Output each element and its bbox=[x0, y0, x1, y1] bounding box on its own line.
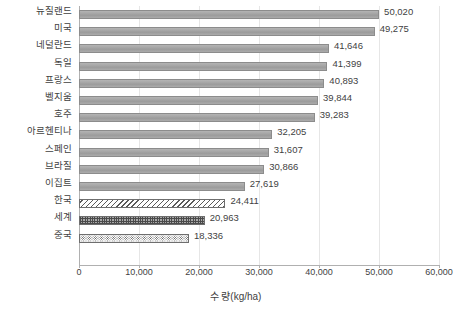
bar-value-label: 27,619 bbox=[250, 179, 279, 189]
x-axis-tick-mark bbox=[379, 265, 380, 268]
bar[interactable] bbox=[79, 113, 315, 122]
bar-row: 이집트27,619 bbox=[0, 178, 471, 195]
bar-row: 호주39,283 bbox=[0, 109, 471, 126]
bar-value-label: 39,283 bbox=[320, 110, 349, 120]
bar[interactable] bbox=[79, 216, 205, 225]
category-label: 네덜란드 bbox=[0, 40, 72, 50]
bar[interactable] bbox=[79, 10, 379, 19]
bar-row: 프랑스40,893 bbox=[0, 75, 471, 92]
category-label: 브라질 bbox=[0, 161, 72, 171]
bar-value-label: 39,844 bbox=[323, 93, 352, 103]
x-axis-tick-mark bbox=[439, 265, 440, 268]
bar-value-label: 20,963 bbox=[210, 213, 239, 223]
bar[interactable] bbox=[79, 234, 189, 243]
bar-chart: 뉴질랜드50,020미국49,275네덜란드41,646독일41,399프랑스4… bbox=[0, 0, 471, 328]
bar-value-label: 50,020 bbox=[384, 7, 413, 17]
bar-value-label: 41,399 bbox=[332, 59, 361, 69]
bar[interactable] bbox=[79, 130, 272, 139]
bar[interactable] bbox=[79, 62, 327, 71]
bar-value-label: 24,411 bbox=[230, 196, 258, 206]
bar-row: 중국18,336 bbox=[0, 230, 471, 247]
category-label: 미국 bbox=[0, 23, 72, 33]
bar-row: 세계20,963 bbox=[0, 212, 471, 229]
category-label: 프랑스 bbox=[0, 75, 72, 85]
category-label: 세계 bbox=[0, 212, 72, 222]
bar-row: 네덜란드41,646 bbox=[0, 40, 471, 57]
category-label: 아르헨티나 bbox=[0, 126, 72, 136]
bar[interactable] bbox=[79, 79, 324, 88]
bar[interactable] bbox=[79, 182, 245, 191]
bar-row: 브라질30,866 bbox=[0, 161, 471, 178]
bar-row: 미국49,275 bbox=[0, 23, 471, 40]
x-axis-tick-mark bbox=[259, 265, 260, 268]
bar-row: 독일41,399 bbox=[0, 58, 471, 75]
category-label: 한국 bbox=[0, 195, 72, 205]
bar-row: 스페인31,607 bbox=[0, 144, 471, 161]
x-axis-tick-label: 60,000 bbox=[404, 268, 471, 277]
bar[interactable] bbox=[79, 27, 375, 36]
bar[interactable] bbox=[79, 165, 264, 174]
bar-value-label: 30,866 bbox=[269, 162, 298, 172]
category-label: 호주 bbox=[0, 109, 72, 119]
x-axis-tick-mark bbox=[139, 265, 140, 268]
category-label: 스페인 bbox=[0, 144, 72, 154]
x-axis-title-text: 수 량(kg/ha) bbox=[210, 291, 262, 302]
category-label: 이집트 bbox=[0, 178, 72, 188]
x-axis-title: 수 량(kg/ha) bbox=[0, 292, 471, 302]
bar[interactable] bbox=[79, 199, 225, 208]
x-axis-tick-mark bbox=[319, 265, 320, 268]
category-label: 벨지움 bbox=[0, 92, 72, 102]
bar-row: 아르헨티나32,205 bbox=[0, 126, 471, 143]
bar[interactable] bbox=[79, 96, 318, 105]
bar-row: 한국24,411 bbox=[0, 195, 471, 212]
bar-value-label: 31,607 bbox=[274, 145, 303, 155]
bar-row: 뉴질랜드50,020 bbox=[0, 6, 471, 23]
bar-value-label: 49,275 bbox=[380, 24, 409, 34]
category-label: 중국 bbox=[0, 230, 72, 240]
bar-row: 벨지움39,844 bbox=[0, 92, 471, 109]
bar-value-label: 40,893 bbox=[329, 76, 358, 86]
bar-value-label: 32,205 bbox=[277, 127, 306, 137]
x-axis-tick-mark bbox=[199, 265, 200, 268]
category-label: 독일 bbox=[0, 58, 72, 68]
bar-value-label: 18,336 bbox=[194, 231, 223, 241]
bar-value-label: 41,646 bbox=[334, 41, 363, 51]
category-label: 뉴질랜드 bbox=[0, 6, 72, 16]
x-axis-tick-mark bbox=[79, 265, 80, 268]
bar[interactable] bbox=[79, 148, 269, 157]
bar[interactable] bbox=[79, 44, 329, 53]
